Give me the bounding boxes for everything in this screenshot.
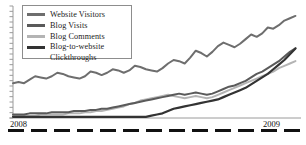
legend-label-clickthroughs-line2: Clickthroughs (50, 53, 127, 64)
legend-item-blog-comments: Blog Comments (27, 31, 127, 42)
legend-item-clickthroughs: Blog-to-website (27, 42, 127, 53)
legend-label-website-visitors: Website Visitors (50, 9, 105, 20)
legend-swatch-blog-comments (27, 35, 45, 38)
legend-label-blog-visits: Blog Visits (50, 20, 88, 31)
legend-label-blog-comments: Blog Comments (50, 31, 105, 42)
caption-cutoff (0, 139, 306, 145)
x-axis-label-year-end: 2009 (263, 120, 280, 129)
legend-label-clickthroughs: Blog-to-website (50, 42, 104, 53)
legend-item-blog-visits: Blog Visits (27, 20, 127, 31)
line-chart: Website Visitors Blog Visits Blog Commen… (0, 0, 306, 145)
x-axis-label-year-start: 2008 (10, 120, 27, 129)
chart-legend: Website Visitors Blog Visits Blog Commen… (22, 5, 132, 59)
legend-swatch-blog-visits (27, 24, 45, 27)
legend-swatch-website-visitors (27, 13, 45, 16)
legend-swatch-clickthroughs (27, 46, 45, 49)
legend-item-website-visitors: Website Visitors (27, 9, 127, 20)
